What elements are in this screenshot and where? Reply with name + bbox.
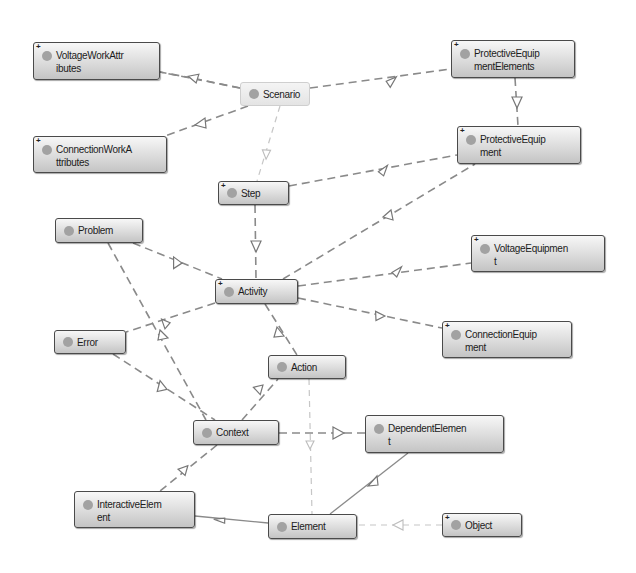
arrowhead bbox=[158, 330, 168, 340]
node-label: DependentElement bbox=[388, 422, 466, 448]
node-label: ProtectiveEquipment bbox=[480, 133, 546, 159]
class-icon bbox=[480, 244, 490, 254]
node-label: ConnectionEquipment bbox=[465, 328, 537, 354]
expand-icon[interactable]: + bbox=[445, 322, 450, 330]
node-label: Context bbox=[216, 426, 248, 439]
expand-icon[interactable]: + bbox=[454, 41, 459, 49]
arrowhead bbox=[368, 476, 378, 486]
arrowhead bbox=[374, 311, 385, 322]
class-icon bbox=[277, 522, 287, 532]
arrowhead bbox=[177, 464, 188, 475]
node-step[interactable]: + Step bbox=[218, 181, 289, 205]
class-icon bbox=[83, 500, 93, 510]
class-icon bbox=[227, 188, 237, 198]
arrowhead bbox=[160, 319, 170, 329]
node-label: Activity bbox=[238, 285, 267, 298]
arrowhead-light bbox=[262, 148, 272, 159]
node-connection-equipment[interactable]: + ConnectionEquipment bbox=[442, 321, 572, 358]
class-icon bbox=[64, 226, 74, 236]
expand-icon[interactable]: + bbox=[474, 236, 479, 244]
expand-icon[interactable]: + bbox=[221, 182, 226, 190]
node-object[interactable]: + Object bbox=[442, 513, 522, 537]
arrowhead bbox=[333, 427, 344, 439]
node-label: Scenario bbox=[263, 88, 300, 101]
class-icon bbox=[451, 520, 461, 530]
node-interactive-element[interactable]: InteractiveElement bbox=[74, 491, 195, 528]
node-problem[interactable]: Problem bbox=[55, 218, 143, 243]
class-icon bbox=[277, 362, 287, 372]
class-icon bbox=[466, 135, 476, 145]
node-protective-equipment[interactable]: + ProtectiveEquipment bbox=[457, 126, 581, 164]
expand-icon[interactable]: + bbox=[36, 43, 41, 51]
node-voltage-work-attributes[interactable]: + VoltageWorkAttributes bbox=[33, 42, 160, 80]
arrowhead bbox=[378, 165, 391, 177]
node-protective-equipment-elements[interactable]: + ProtectiveEquipmentElements bbox=[451, 40, 575, 78]
class-icon bbox=[42, 145, 52, 155]
edges-layer bbox=[0, 0, 636, 573]
node-label: ProtectiveEquipmentElements bbox=[474, 47, 540, 73]
class-icon bbox=[249, 89, 259, 99]
node-context[interactable]: Context bbox=[193, 420, 279, 445]
arrowhead bbox=[195, 118, 206, 128]
arrowhead bbox=[251, 241, 261, 252]
node-label: Error bbox=[77, 336, 98, 349]
node-label: Action bbox=[291, 361, 317, 374]
class-icon bbox=[460, 49, 470, 59]
node-action[interactable]: Action bbox=[268, 355, 346, 379]
arrowhead bbox=[386, 77, 399, 88]
node-element[interactable]: Element bbox=[268, 514, 357, 539]
node-label: Object bbox=[465, 519, 492, 532]
expand-icon[interactable]: + bbox=[445, 514, 450, 522]
class-icon bbox=[374, 424, 384, 434]
arrowhead bbox=[252, 383, 263, 394]
node-error[interactable]: Error bbox=[54, 330, 126, 354]
class-icon bbox=[63, 337, 73, 347]
node-label: InteractiveElement bbox=[97, 498, 161, 524]
class-icon bbox=[42, 51, 52, 61]
node-dependent-element[interactable]: DependentElement bbox=[365, 415, 504, 453]
arrowhead-light bbox=[306, 441, 314, 449]
class-icon bbox=[202, 428, 212, 438]
node-label: VoltageWorkAttributes bbox=[56, 49, 124, 75]
node-label: VoltageEquipment bbox=[494, 242, 568, 268]
node-connection-work-attributes[interactable]: + ConnectionWorkAttributes bbox=[33, 136, 167, 173]
expand-icon[interactable]: + bbox=[36, 137, 41, 145]
node-label: Step bbox=[241, 187, 260, 200]
expand-icon[interactable]: + bbox=[460, 127, 465, 135]
arrowhead bbox=[214, 517, 226, 525]
node-scenario[interactable]: Scenario bbox=[240, 82, 310, 106]
expand-icon[interactable]: + bbox=[218, 280, 223, 288]
node-activity[interactable]: + Activity bbox=[215, 279, 298, 304]
node-voltage-equipment[interactable]: + VoltageEquipment bbox=[471, 235, 605, 272]
arrowhead-light bbox=[393, 520, 403, 530]
class-icon bbox=[451, 330, 461, 340]
node-label: ConnectionWorkAttributes bbox=[56, 143, 132, 169]
node-label: Element bbox=[291, 520, 326, 533]
class-icon bbox=[224, 287, 234, 297]
arrowhead bbox=[512, 97, 522, 108]
node-label: Problem bbox=[78, 224, 113, 237]
